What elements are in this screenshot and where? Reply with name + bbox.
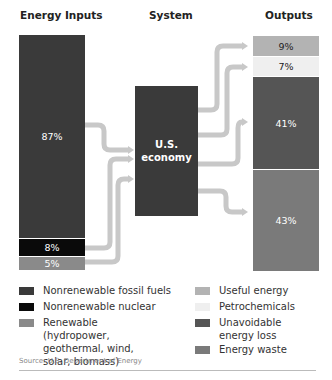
legend-swatch [19, 303, 34, 311]
waste-value: 43% [275, 215, 296, 226]
fossil-value: 87% [41, 131, 62, 142]
output-petrochemicals-segment: 7% [253, 57, 319, 76]
legend-item-fossil: Nonrenewable fossil fuels [19, 284, 179, 297]
legend-swatch [195, 287, 210, 295]
legend-label: Unavoidable energy loss [219, 316, 310, 342]
nuclear-value: 8% [44, 242, 59, 253]
legend-item-useful: Useful energy [195, 284, 332, 297]
output-useful-segment: 9% [253, 36, 319, 56]
legend-swatch [195, 346, 210, 354]
legend-label: Nonrenewable fossil fuels [43, 284, 171, 297]
legend-item-nuclear: Nonrenewable nuclear [19, 300, 179, 313]
legend-swatch [19, 319, 34, 327]
legend-swatch [195, 303, 210, 311]
unavoidable-value: 41% [275, 118, 296, 129]
legend-item-unavoidable: Unavoidable energy loss [195, 316, 310, 342]
system-line2: economy [141, 151, 192, 164]
legend-label: Energy waste [219, 343, 287, 356]
input-fossil-segment: 87% [19, 35, 85, 238]
legend-swatch [19, 287, 34, 295]
input-nuclear-segment: 8% [19, 239, 85, 256]
legend-item-petrochemicals: Petrochemicals [195, 300, 332, 313]
output-unavoidable-segment: 41% [253, 77, 319, 169]
us-economy-box: U.S. economy [135, 86, 198, 216]
renewable-value: 5% [44, 258, 59, 269]
legend-label: Petrochemicals [219, 300, 295, 313]
useful-value: 9% [278, 41, 293, 52]
legend-item-waste: Energy waste [195, 343, 332, 356]
legend-label: Useful energy [219, 284, 288, 297]
system-line1: U.S. [141, 138, 192, 151]
source-note: Source: U.S. Department of Energy [19, 357, 142, 365]
output-waste-segment: 43% [253, 170, 319, 271]
input-renewable-segment: 5% [19, 257, 85, 270]
bottom-divider [19, 370, 316, 371]
legend-swatch [195, 319, 210, 327]
legend-label: Nonrenewable nuclear [43, 300, 156, 313]
petrochemicals-value: 7% [278, 61, 293, 72]
